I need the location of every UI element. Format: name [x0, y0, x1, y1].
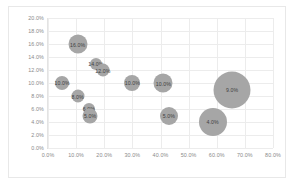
bubble-data-label: 8.0% — [71, 93, 83, 99]
gridline-horizontal — [48, 148, 273, 149]
bubble-point[interactable]: 8.0% — [71, 90, 84, 103]
y-axis-tick-label: 4.0% — [31, 119, 44, 125]
bubble-point[interactable]: 5.0% — [160, 107, 178, 125]
x-axis-tick-label: 40.0% — [153, 152, 169, 158]
bubble-data-label: 16.0% — [70, 41, 85, 47]
gridline-vertical — [104, 18, 105, 148]
bubble-point[interactable]: 10.0% — [55, 76, 69, 90]
bubble-data-label: 5.0% — [163, 113, 175, 119]
bubble-data-label: 12.0% — [95, 67, 110, 73]
bubble-point[interactable]: 9.0% — [214, 71, 251, 108]
bubble-point[interactable]: 4.0% — [199, 108, 227, 136]
x-axis-tick-label: 30.0% — [124, 152, 140, 158]
bubble-point[interactable]: 10.0% — [154, 74, 173, 93]
x-axis-tick-label: 80.0% — [265, 152, 281, 158]
y-axis-tick-label: 16.0% — [28, 41, 44, 47]
x-axis-tick-label: 10.0% — [68, 152, 84, 158]
y-axis-tick-label: 18.0% — [28, 28, 44, 34]
gridline-vertical — [48, 18, 49, 148]
bubble-point[interactable]: 5.0% — [83, 108, 98, 123]
plot-area: 0.0%2.0%4.0%6.0%8.0%10.0%12.0%14.0%16.0%… — [47, 18, 273, 149]
y-axis-tick-label: 2.0% — [31, 132, 44, 138]
bubble-data-label: 9.0% — [226, 87, 238, 93]
x-axis-tick-label: 20.0% — [96, 152, 112, 158]
y-axis-tick-label: 10.0% — [28, 80, 44, 86]
y-axis-tick-label: 12.0% — [28, 67, 44, 73]
x-axis-tick-label: 60.0% — [209, 152, 225, 158]
gridline-vertical — [189, 18, 190, 148]
x-axis-tick-label: 70.0% — [237, 152, 253, 158]
x-axis-tick-label: 0.0% — [42, 152, 55, 158]
bubble-data-label: 4.0% — [206, 119, 218, 125]
bubble-point[interactable]: 12.0% — [96, 64, 109, 77]
y-axis-tick-label: 14.0% — [28, 54, 44, 60]
bubble-point[interactable]: 16.0% — [68, 35, 87, 54]
bubble-data-label: 10.0% — [54, 80, 69, 86]
bubble-point[interactable]: 10.0% — [124, 75, 140, 91]
x-axis-tick-label: 50.0% — [181, 152, 197, 158]
chart-container: 0.0%2.0%4.0%6.0%8.0%10.0%12.0%14.0%16.0%… — [8, 6, 286, 178]
y-axis-tick-label: 8.0% — [31, 93, 44, 99]
y-axis-tick-label: 0.0% — [31, 145, 44, 151]
plot-wrapper: 0.0%2.0%4.0%6.0%8.0%10.0%12.0%14.0%16.0%… — [9, 7, 287, 179]
bubble-data-label: 10.0% — [125, 80, 140, 86]
bubble-data-label: 10.0% — [156, 80, 171, 86]
y-axis-tick-label: 6.0% — [31, 106, 44, 112]
y-axis-tick-label: 20.0% — [28, 15, 44, 21]
bubble-data-label: 5.0% — [84, 113, 96, 119]
gridline-vertical — [273, 18, 274, 148]
